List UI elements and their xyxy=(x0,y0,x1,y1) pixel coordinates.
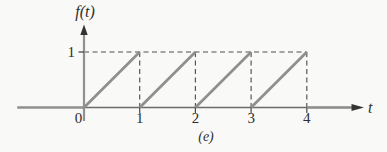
x-tick-label-1: 1 xyxy=(136,110,144,126)
curve-segment xyxy=(140,52,196,108)
x-tick-label-0: 0 xyxy=(75,110,83,126)
figure-caption: (e) xyxy=(198,129,214,145)
figure-canvas: f(t) t 1 0 1 2 3 4 (e) xyxy=(0,0,387,152)
y-tick-label-1: 1 xyxy=(68,44,76,60)
x-tick-label-3: 3 xyxy=(247,110,255,126)
curve-segment xyxy=(195,52,251,108)
dashed-guides xyxy=(84,52,307,108)
y-axis-arrowhead-icon xyxy=(80,25,87,36)
curve-segment xyxy=(84,52,140,108)
x-axis-arrowhead-icon xyxy=(352,104,365,111)
x-tick-label-2: 2 xyxy=(192,110,200,126)
sawtooth-plot: f(t) t 1 0 1 2 3 4 (e) xyxy=(0,0,387,152)
y-axis-label: f(t) xyxy=(75,3,95,21)
curve-segment xyxy=(251,52,307,108)
sawtooth-curve xyxy=(17,52,351,108)
x-tick-label-4: 4 xyxy=(303,110,311,126)
x-axis-label: t xyxy=(368,99,373,116)
